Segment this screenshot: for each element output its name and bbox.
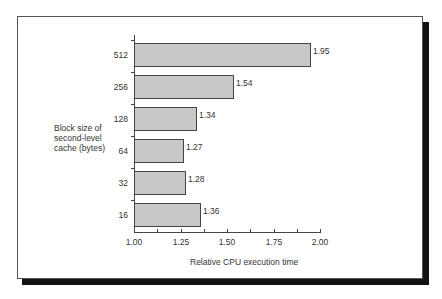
- value-label: 1.36: [203, 206, 220, 216]
- value-label: 1.54: [236, 78, 253, 88]
- x-tick: [204, 229, 205, 233]
- x-tick: [320, 229, 321, 233]
- category-label: 256: [98, 82, 128, 92]
- y-tick: [131, 40, 135, 41]
- x-tick: [134, 229, 135, 233]
- category-label: 32: [98, 178, 128, 188]
- category-label: 16: [98, 210, 128, 220]
- y-tick: [131, 136, 135, 137]
- bar-256: [134, 75, 234, 99]
- y-axis-label-line: second-level: [54, 133, 105, 143]
- bar-16: [134, 203, 201, 227]
- value-label: 1.34: [199, 110, 216, 120]
- category-label: 128: [98, 114, 128, 124]
- value-label: 1.27: [186, 142, 203, 152]
- x-tick-label: 1.00: [119, 237, 149, 247]
- y-tick: [131, 168, 135, 169]
- x-axis-label: Relative CPU execution time: [190, 257, 298, 267]
- x-tick: [250, 229, 251, 233]
- x-tick-label: 1.50: [212, 237, 242, 247]
- category-label: 512: [98, 50, 128, 60]
- value-label: 1.95: [313, 46, 330, 56]
- category-label: 64: [98, 146, 128, 156]
- bar-128: [134, 107, 197, 131]
- x-tick: [297, 229, 298, 233]
- value-label: 1.28: [188, 174, 205, 184]
- bar-32: [134, 171, 186, 195]
- x-tick-label: 1.75: [259, 237, 289, 247]
- bar-64: [134, 139, 184, 163]
- x-tick: [157, 229, 158, 233]
- x-tick: [227, 229, 228, 233]
- x-tick: [181, 229, 182, 233]
- y-axis-label-line: Block size of: [54, 123, 105, 133]
- x-tick: [274, 229, 275, 233]
- bar-512: [134, 43, 311, 67]
- y-tick: [131, 200, 135, 201]
- x-tick-label: 1.25: [166, 237, 196, 247]
- x-tick-label: 2.00: [305, 237, 335, 247]
- y-tick: [131, 72, 135, 73]
- y-tick: [131, 104, 135, 105]
